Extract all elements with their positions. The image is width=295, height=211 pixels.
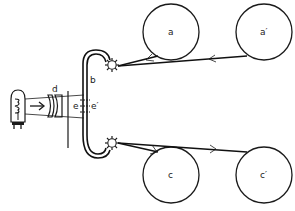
reel-c-label: c: [168, 170, 173, 180]
film-loop-inner-top: [87, 54, 106, 135]
film-loop-label: b: [90, 75, 96, 85]
projector-diagram: a a′ c c′ b: [0, 0, 295, 211]
condenser-lens: d: [48, 84, 62, 117]
film-loop-inner-bottom: [87, 135, 106, 154]
reel-a: a: [143, 4, 199, 60]
diagram: a a′ c c′ b: [0, 0, 295, 211]
lens-label: d: [52, 84, 58, 94]
reel-c-prime-label: c′: [260, 170, 267, 180]
film-gate: e e′: [73, 100, 99, 112]
sprocket-top-icon: [105, 58, 119, 72]
reel-a-label: a: [168, 27, 174, 37]
gate-right-label: e′: [91, 101, 99, 111]
lamp-icon: [11, 90, 25, 129]
reel-a-prime-label: a′: [260, 27, 268, 37]
film-bottom: [118, 143, 247, 154]
gate-left-label: e: [73, 101, 79, 111]
sprocket-bottom-icon: [105, 136, 119, 150]
reel-a-prime: a′: [236, 4, 292, 60]
reel-c-prime: c′: [236, 147, 292, 203]
film-top: [118, 54, 247, 66]
reel-c: c: [143, 147, 199, 203]
